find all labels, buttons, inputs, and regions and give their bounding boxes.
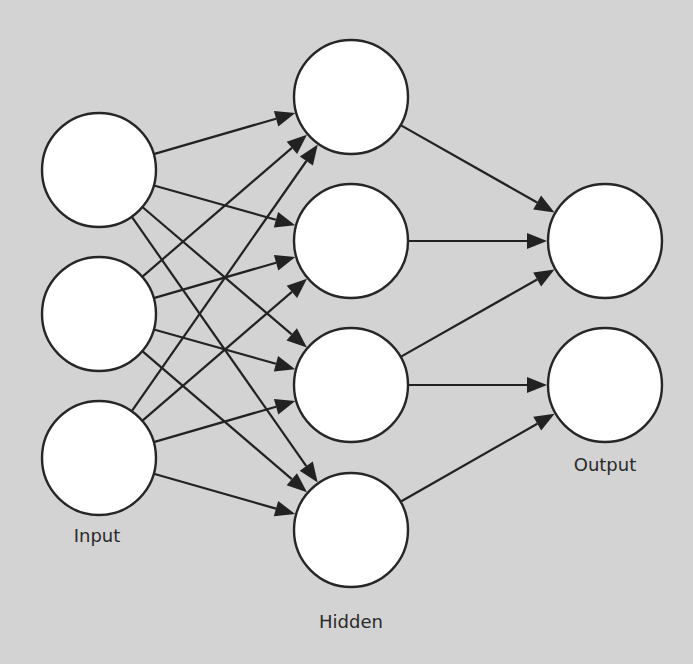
connection-arrow bbox=[401, 270, 555, 357]
arrowhead-icon bbox=[527, 377, 547, 393]
arrowhead-icon bbox=[274, 212, 295, 227]
output-layer-label: Output bbox=[574, 455, 637, 475]
input-node-i3 bbox=[42, 401, 156, 515]
hidden-layer-label: Hidden bbox=[319, 612, 383, 632]
arrowhead-icon bbox=[274, 501, 295, 516]
connection-line bbox=[142, 292, 292, 421]
edges bbox=[132, 111, 555, 516]
output-node-o2 bbox=[548, 328, 662, 442]
connection-arrow bbox=[408, 233, 547, 249]
connection-line bbox=[401, 280, 537, 357]
connection-arrow bbox=[401, 414, 555, 502]
input-node-i2 bbox=[42, 257, 156, 371]
connection-arrow bbox=[142, 279, 307, 421]
connection-line bbox=[132, 161, 307, 411]
connection-line bbox=[142, 207, 291, 334]
nodes bbox=[42, 40, 662, 587]
hidden-node-h1 bbox=[294, 40, 408, 154]
hidden-node-h2 bbox=[294, 184, 408, 298]
input-node-i1 bbox=[42, 113, 156, 227]
arrowhead-icon bbox=[533, 414, 554, 431]
hidden-node-h3 bbox=[294, 328, 408, 442]
output-node-o1 bbox=[548, 184, 662, 298]
arrowhead-icon bbox=[274, 399, 295, 414]
arrowhead-icon bbox=[300, 462, 318, 483]
connection-arrow bbox=[401, 125, 555, 212]
connection-line bbox=[154, 119, 276, 154]
arrowhead-icon bbox=[274, 111, 295, 126]
connection-arrow bbox=[154, 474, 295, 517]
connection-line bbox=[401, 424, 538, 502]
arrowhead-icon bbox=[533, 196, 554, 213]
input-layer-label: Input bbox=[74, 526, 121, 546]
connection-arrow bbox=[154, 111, 296, 154]
connection-arrow bbox=[132, 145, 318, 412]
hidden-node-h4 bbox=[294, 473, 408, 587]
connection-line bbox=[132, 217, 307, 466]
connection-arrow bbox=[142, 135, 307, 277]
diagram-canvas bbox=[0, 0, 693, 664]
arrowhead-icon bbox=[274, 356, 295, 371]
connection-line bbox=[154, 474, 276, 509]
connection-line bbox=[401, 125, 537, 202]
arrowhead-icon bbox=[533, 270, 554, 287]
arrowhead-icon bbox=[300, 145, 318, 166]
neural-network-diagram: Input Hidden Output bbox=[0, 0, 693, 664]
arrowhead-icon bbox=[527, 233, 547, 249]
connection-arrow bbox=[408, 377, 547, 393]
arrowhead-icon bbox=[274, 255, 295, 270]
